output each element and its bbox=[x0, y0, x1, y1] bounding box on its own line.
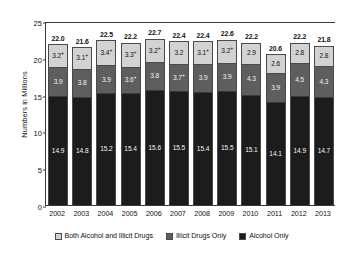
bar-segment[interactable]: 3.6+ bbox=[122, 68, 140, 94]
bar-segment[interactable]: 3.1+ bbox=[194, 42, 212, 65]
stacked-bar[interactable]: 3.23.7+15.5 bbox=[169, 41, 189, 206]
bar-segment[interactable]: 3.1+ bbox=[73, 48, 91, 70]
legend-item[interactable]: Alcohol Only bbox=[239, 232, 288, 240]
bar-total-label: 22.5 bbox=[100, 31, 113, 38]
bar-segment-label: 2.8 bbox=[295, 50, 304, 57]
legend-swatch bbox=[166, 233, 173, 240]
bar-segment-label: 3.3+ bbox=[125, 52, 137, 59]
bar-segment[interactable]: 4.3 bbox=[242, 65, 260, 96]
bar-segment-label: 15.5 bbox=[173, 145, 185, 152]
bar-segment[interactable]: 15.5 bbox=[170, 92, 188, 205]
bar-segment-label: 3.9 bbox=[54, 79, 63, 86]
bar-segment[interactable]: 15.4 bbox=[194, 93, 212, 205]
bar-group[interactable]: 3.23.7+15.522.4 bbox=[169, 23, 189, 206]
stacked-bar[interactable]: 2.84.514.9 bbox=[290, 43, 310, 206]
bar-segment[interactable]: 2.9 bbox=[242, 44, 260, 65]
x-axis-tick-label: 2004 bbox=[92, 209, 118, 218]
bar-segment[interactable]: 3.3+ bbox=[122, 44, 140, 68]
bar-segment[interactable]: 3.9 bbox=[49, 68, 67, 96]
legend-swatch bbox=[239, 233, 246, 240]
bar-segment[interactable]: 3.9 bbox=[218, 64, 236, 92]
y-axis-tick-mark bbox=[43, 207, 47, 208]
bar-segment[interactable]: 3.9 bbox=[97, 66, 115, 94]
bar-segment[interactable]: 3.8 bbox=[73, 70, 91, 97]
bar-segment-label: 3.8 bbox=[78, 80, 87, 87]
bar-segment[interactable]: 15.6 bbox=[146, 91, 164, 205]
bar-segment[interactable]: 3.8 bbox=[146, 63, 164, 91]
bar-segment-label: 15.2 bbox=[100, 146, 112, 153]
bar-total-label: 22.0 bbox=[52, 35, 65, 42]
bar-segment[interactable]: 14.1 bbox=[267, 103, 285, 205]
bar-group[interactable]: 3.1+3.915.422.4 bbox=[193, 23, 213, 206]
bar-segment[interactable]: 15.1 bbox=[242, 96, 260, 205]
x-axis-tick-label: 2012 bbox=[286, 209, 312, 218]
y-axis-tick-mark bbox=[43, 96, 47, 97]
bar-segment[interactable]: 3.4+ bbox=[97, 41, 115, 66]
bar-segment[interactable]: 3.7+ bbox=[170, 65, 188, 92]
bar-total-label: 22.2 bbox=[293, 33, 306, 40]
bar-group[interactable]: 2.84.314.721.8 bbox=[314, 23, 334, 206]
bar-segment[interactable]: 3.9 bbox=[194, 65, 212, 93]
bar-group[interactable]: 2.63.914.120.6 bbox=[266, 23, 286, 206]
y-axis-tick-mark bbox=[43, 133, 47, 134]
stacked-bar[interactable]: 3.2+3.914.9 bbox=[48, 44, 68, 206]
bar-segment[interactable]: 4.5 bbox=[291, 64, 309, 97]
x-axis-tick-label: 2010 bbox=[237, 209, 263, 218]
bar-segment[interactable]: 2.6 bbox=[267, 55, 285, 74]
bar-group[interactable]: 2.94.315.122.2 bbox=[241, 23, 261, 206]
bar-segment-label: 15.4 bbox=[197, 146, 209, 153]
bar-group[interactable]: 3.2+3.815.622.7 bbox=[145, 23, 165, 206]
stacked-bar[interactable]: 3.1+3.915.4 bbox=[193, 41, 213, 206]
legend-item[interactable]: Both Alcohol and Illicit Drugs bbox=[55, 232, 153, 240]
stacked-bar[interactable]: 2.94.315.1 bbox=[241, 43, 261, 206]
bar-group[interactable]: 2.84.514.922.2 bbox=[290, 23, 310, 206]
bar-segment[interactable]: 3.2+ bbox=[146, 40, 164, 63]
bar-segment[interactable]: 4.3 bbox=[315, 67, 333, 98]
legend-item[interactable]: Illicit Drugs Only bbox=[166, 232, 226, 240]
bar-segment[interactable]: 15.4 bbox=[122, 94, 140, 205]
stacked-bar[interactable]: 3.4+3.915.2 bbox=[96, 40, 116, 206]
bar-segment[interactable]: 2.8 bbox=[291, 44, 309, 64]
bar-group[interactable]: 3.2+3.915.522.6 bbox=[217, 23, 237, 206]
bar-segment[interactable]: 3.2+ bbox=[49, 45, 67, 68]
stacked-bar[interactable]: 2.84.314.7 bbox=[314, 46, 334, 206]
bar-group[interactable]: 3.4+3.915.222.5 bbox=[96, 23, 116, 206]
bar-segment[interactable]: 15.5 bbox=[218, 92, 236, 205]
bar-segment[interactable]: 2.8 bbox=[315, 47, 333, 67]
bar-segment[interactable]: 3.2+ bbox=[218, 41, 236, 64]
legend-swatch bbox=[55, 233, 62, 240]
x-axis-tick-label: 2008 bbox=[189, 209, 215, 218]
x-axis-tick-label: 2006 bbox=[141, 209, 167, 218]
bar-segment[interactable]: 15.2 bbox=[97, 94, 115, 205]
bar-segment-label: 3.9 bbox=[102, 77, 111, 84]
bar-total-label: 21.8 bbox=[317, 36, 330, 43]
stacked-bar[interactable]: 3.2+3.815.6 bbox=[145, 39, 165, 206]
legend-label: Both Alcohol and Illicit Drugs bbox=[65, 232, 153, 240]
bar-segment-label: 3.1+ bbox=[76, 55, 88, 62]
bar-group[interactable]: 3.3+3.6+15.422.2 bbox=[121, 23, 141, 206]
stacked-bar[interactable]: 2.63.914.1 bbox=[266, 54, 286, 206]
bar-total-label: 22.6 bbox=[221, 30, 234, 37]
bar-segment-label: 15.5 bbox=[221, 145, 233, 152]
bar-segment[interactable]: 14.9 bbox=[291, 97, 309, 205]
bar-segment[interactable]: 3.2 bbox=[170, 42, 188, 65]
x-axis-tick-label: 2013 bbox=[310, 209, 336, 218]
bar-segment-label: 3.6+ bbox=[125, 77, 137, 84]
bar-segment[interactable]: 14.8 bbox=[73, 98, 91, 205]
bar-segment-label: 3.2 bbox=[174, 50, 183, 57]
significance-marker: + bbox=[109, 47, 112, 53]
bar-segment-label: 14.9 bbox=[294, 148, 306, 155]
stacked-bar[interactable]: 3.2+3.915.5 bbox=[217, 40, 237, 206]
bar-segment[interactable]: 14.7 bbox=[315, 98, 333, 205]
bar-group[interactable]: 3.1+3.814.821.6 bbox=[72, 23, 92, 206]
bar-total-label: 22.2 bbox=[124, 33, 137, 40]
bar-segment[interactable]: 14.9 bbox=[49, 97, 67, 205]
y-axis-tick-mark bbox=[43, 170, 47, 171]
stacked-bar[interactable]: 3.3+3.6+15.4 bbox=[121, 43, 141, 206]
bar-total-label: 22.4 bbox=[172, 32, 185, 39]
bar-segment-label: 2.8 bbox=[319, 53, 328, 60]
bar-group[interactable]: 3.2+3.914.922.0 bbox=[48, 23, 68, 206]
stacked-bar[interactable]: 3.1+3.814.8 bbox=[72, 47, 92, 206]
x-axis-tick-label: 2005 bbox=[117, 209, 143, 218]
bar-segment[interactable]: 3.9 bbox=[267, 74, 285, 102]
